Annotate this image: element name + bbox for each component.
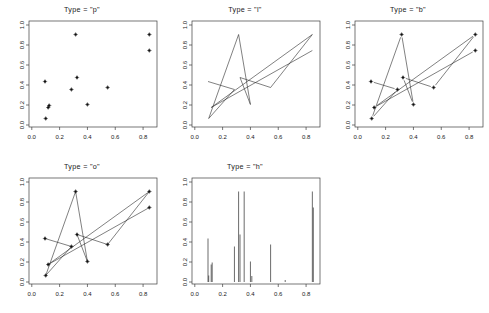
data-line-segment (211, 51, 312, 108)
x-tick-label: 0.0 (28, 134, 37, 140)
x-tick-label: 0.0 (191, 291, 200, 297)
y-tick-label: 0.8 (345, 40, 351, 49)
y-tick-label: 0.2 (345, 100, 351, 109)
y-tick-label: 0.4 (182, 237, 188, 246)
data-point-marker (411, 102, 415, 106)
y-tick-label: 0.6 (182, 60, 188, 69)
data-line-segment (240, 78, 250, 105)
x-tick-label: 0.0 (354, 134, 363, 140)
data-point-marker (73, 189, 77, 193)
y-tick-label: 0.6 (182, 217, 188, 226)
data-point-marker (75, 232, 79, 236)
y-tick-label: 0.4 (19, 80, 25, 89)
x-tick-label: 0.8 (302, 291, 311, 297)
figure-canvas: Type = "p" 0.00.20.40.60.80.00.20.40.60.… (0, 0, 489, 313)
y-tick-label: 0.2 (182, 100, 188, 109)
data-point-marker (372, 105, 376, 109)
x-tick-label: 0.4 (246, 291, 255, 297)
data-point-marker (46, 262, 50, 266)
data-point-marker (369, 116, 373, 120)
y-tick-label: 1.0 (19, 20, 25, 29)
y-tick-label: 0.8 (182, 197, 188, 206)
x-tick-label: 0.8 (302, 134, 311, 140)
y-tick-label: 0.6 (19, 217, 25, 226)
data-point-marker (473, 48, 477, 52)
data-point-marker (473, 32, 477, 36)
data-point-marker (43, 116, 47, 120)
data-point-marker (147, 48, 151, 52)
data-line-segment (271, 35, 313, 88)
x-tick-label: 0.0 (28, 291, 37, 297)
y-tick-label: 0.4 (19, 237, 25, 246)
x-tick-label: 0.8 (139, 291, 148, 297)
data-line-segment (377, 36, 473, 105)
data-point-marker (147, 32, 151, 36)
data-line-segment (211, 35, 312, 108)
y-tick-label: 0.8 (19, 197, 25, 206)
x-tick-label: 0.2 (55, 134, 64, 140)
y-tick-label: 0.8 (182, 40, 188, 49)
plot-area-b: 0.00.20.40.60.80.00.20.40.60.81.0 (326, 0, 489, 155)
data-line-segment (48, 192, 149, 265)
data-point-marker (75, 75, 79, 79)
plot-area-o: 0.00.20.40.60.80.00.20.40.60.81.0 (0, 157, 164, 312)
panel-type-b: Type = "b" 0.00.20.40.60.80.00.20.40.60.… (326, 0, 489, 155)
y-tick-label: 1.0 (345, 20, 351, 29)
x-tick-label: 0.6 (437, 134, 446, 140)
data-line-segment (239, 35, 251, 105)
data-point-marker (147, 205, 151, 209)
x-tick-label: 0.0 (191, 134, 200, 140)
data-line-segment (108, 192, 150, 245)
y-tick-label: 0.4 (345, 80, 351, 89)
plot-area-l: 0.00.20.40.60.80.00.20.40.60.81.0 (163, 0, 327, 155)
y-tick-label: 0.0 (19, 120, 25, 129)
x-tick-label: 0.8 (465, 134, 474, 140)
y-tick-label: 0.0 (19, 277, 25, 286)
x-tick-label: 0.6 (111, 134, 120, 140)
y-tick-label: 0.2 (182, 257, 188, 266)
data-point-marker (369, 79, 373, 83)
y-tick-label: 0.0 (182, 120, 188, 129)
y-tick-label: 0.4 (182, 80, 188, 89)
x-tick-label: 0.6 (274, 291, 283, 297)
data-line-segment (435, 37, 473, 85)
data-point-marker (401, 75, 405, 79)
x-tick-label: 0.4 (409, 134, 418, 140)
x-tick-label: 0.2 (218, 291, 227, 297)
data-line-segment (48, 208, 149, 265)
data-point-marker (43, 79, 47, 83)
data-line-segment (77, 235, 87, 262)
x-tick-label: 0.6 (111, 291, 120, 297)
panel-type-p: Type = "p" 0.00.20.40.60.80.00.20.40.60.… (0, 0, 164, 155)
data-point-marker (73, 32, 77, 36)
y-tick-label: 0.0 (345, 120, 351, 129)
y-tick-label: 1.0 (182, 20, 188, 29)
data-point-marker (431, 85, 435, 89)
data-point-marker (43, 236, 47, 240)
y-tick-label: 0.8 (19, 40, 25, 49)
x-tick-label: 0.4 (83, 134, 92, 140)
data-line-segment (373, 37, 401, 115)
plot-area-p: 0.00.20.40.60.80.00.20.40.60.81.0 (0, 0, 164, 155)
x-tick-label: 0.8 (139, 134, 148, 140)
x-tick-label: 0.2 (55, 291, 64, 297)
plot-area-h: 0.00.20.40.60.80.00.20.40.60.81.0 (163, 157, 327, 312)
x-tick-label: 0.6 (274, 134, 283, 140)
data-point-marker (85, 259, 89, 263)
y-tick-label: 0.6 (19, 60, 25, 69)
data-point-marker (395, 87, 399, 91)
y-tick-label: 1.0 (19, 177, 25, 186)
data-point-marker (105, 85, 109, 89)
y-tick-label: 0.2 (19, 257, 25, 266)
y-tick-label: 1.0 (182, 177, 188, 186)
data-point-marker (399, 32, 403, 36)
panel-type-o: Type = "o" 0.00.20.40.60.80.00.20.40.60.… (0, 157, 164, 312)
data-line-segment (402, 37, 413, 101)
data-point-marker (85, 102, 89, 106)
y-tick-label: 0.6 (345, 60, 351, 69)
y-tick-label: 0.0 (182, 277, 188, 286)
x-tick-label: 0.2 (381, 134, 390, 140)
panel-type-l: Type = "l" 0.00.20.40.60.80.00.20.40.60.… (163, 0, 327, 155)
panel-type-h: Type = "h" 0.00.20.40.60.80.00.20.40.60.… (163, 157, 327, 312)
x-tick-label: 0.2 (218, 134, 227, 140)
